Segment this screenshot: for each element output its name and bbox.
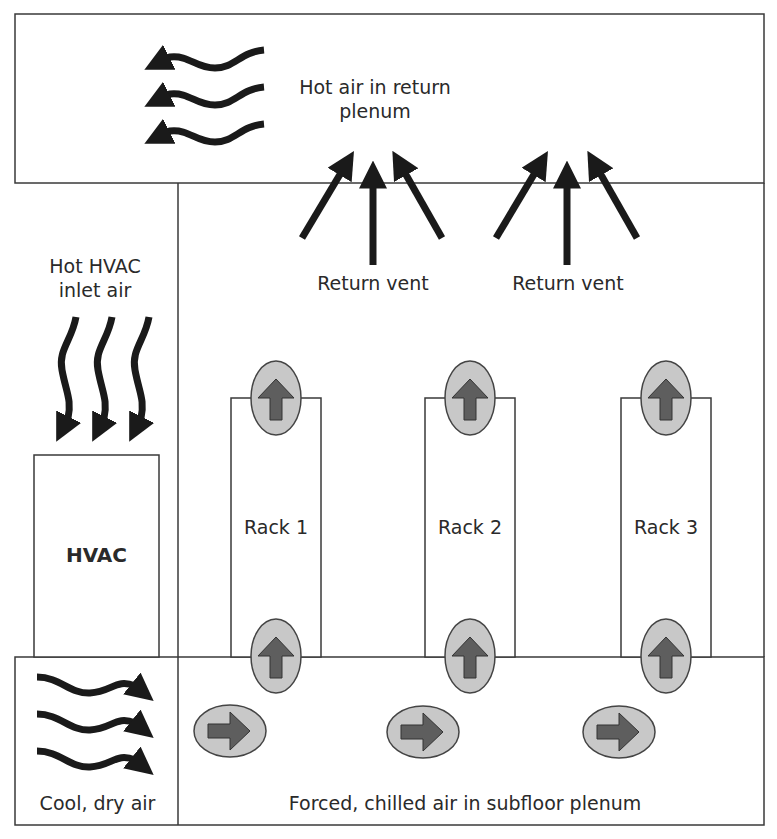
return-plenum-label: Hot air in return plenum (290, 75, 460, 123)
oval-arrow-right-icon (194, 705, 266, 757)
return-vent-2-arrows (496, 166, 637, 265)
airflow-diagram (0, 0, 777, 839)
rack-1-label: Rack 1 (231, 515, 321, 539)
return-plenum-label-line2: plenum (290, 99, 460, 123)
wavy-arrow-down-icon (61, 317, 149, 426)
oval-arrow-up-icon (251, 361, 301, 435)
return-vent-1-arrows (302, 166, 442, 265)
hvac-inlet-label-line2: inlet air (30, 278, 160, 302)
oval-arrow-up-icon (251, 619, 301, 693)
return-plenum-label-line1: Hot air in return (290, 75, 460, 99)
hvac-inlet-label: Hot HVAC inlet air (30, 254, 160, 302)
return-vent-1-label: Return vent (303, 271, 443, 295)
hvac-unit-label: HVAC (34, 543, 159, 567)
wavy-arrow-left-icon (160, 50, 264, 142)
oval-arrow-right-icon (387, 706, 459, 758)
cool-air-label: Cool, dry air (20, 791, 175, 815)
hvac-inlet-label-line1: Hot HVAC (30, 254, 160, 278)
oval-arrow-right-icon (583, 706, 655, 758)
wavy-arrow-right-icon (37, 677, 140, 767)
rack-3-label: Rack 3 (621, 515, 711, 539)
subfloor-label: Forced, chilled air in subfloor plenum (265, 791, 665, 815)
oval-arrow-up-icon (445, 619, 495, 693)
oval-arrow-up-icon (445, 361, 495, 435)
rack-2-label: Rack 2 (425, 515, 515, 539)
return-vent-2-label: Return vent (498, 271, 638, 295)
oval-arrow-up-icon (641, 361, 691, 435)
oval-arrow-up-icon (641, 619, 691, 693)
